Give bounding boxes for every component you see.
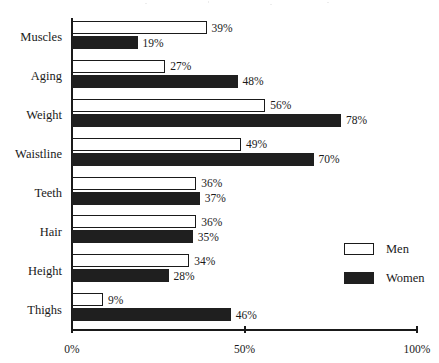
category-label-muscles: Muscles	[20, 30, 62, 44]
bar-men-thighs: 9%	[72, 293, 103, 306]
bar-women-weight: 78%	[72, 114, 341, 127]
bar-value-label: 9%	[108, 294, 123, 306]
x-tick-label: 50%	[234, 343, 255, 355]
category-label-hair: Hair	[40, 225, 62, 239]
x-tick-label: 100%	[404, 343, 431, 355]
bar-value-label: 78%	[346, 114, 367, 126]
bar-row: Teeth36%37%	[72, 174, 417, 213]
bar-value-label: 28%	[174, 270, 195, 282]
bar-value-label: 34%	[194, 255, 215, 267]
bar-women-height: 28%	[72, 269, 169, 282]
bar-value-label: 35%	[198, 231, 219, 243]
bar-value-label: 48%	[243, 75, 264, 87]
bar-value-label: 70%	[319, 153, 340, 165]
legend-label-women: Women	[386, 271, 425, 285]
bar-women-teeth: 37%	[72, 192, 200, 205]
bar-men-hair: 36%	[72, 215, 196, 228]
legend-label-men: Men	[386, 242, 409, 256]
bar-value-label: 27%	[170, 60, 191, 72]
bar-women-waistline: 70%	[72, 153, 314, 166]
bar-value-label: 39%	[212, 22, 233, 34]
legend-item-men: Men	[344, 238, 436, 260]
bar-row: Waistline49%70%	[72, 135, 417, 174]
category-label-teeth: Teeth	[34, 186, 62, 200]
category-label-weight: Weight	[26, 108, 62, 122]
legend-item-women: Women	[344, 267, 436, 289]
bar-row: Muscles39%19%	[72, 18, 417, 57]
bar-chart: Muscles39%19%Aging27%48%Weight56%78%Wais…	[0, 0, 439, 363]
bar-value-label: 36%	[201, 216, 222, 228]
bar-value-label: 19%	[143, 37, 164, 49]
bar-men-muscles: 39%	[72, 21, 207, 34]
scan-artifact	[120, 1, 380, 6]
chart-legend: Men Women	[344, 238, 436, 296]
x-tick-mark	[71, 326, 73, 333]
category-label-waistline: Waistline	[15, 147, 62, 161]
category-label-thighs: Thighs	[27, 303, 62, 317]
bar-men-weight: 56%	[72, 99, 265, 112]
bar-men-aging: 27%	[72, 60, 165, 73]
x-tick-label: 0%	[64, 343, 79, 355]
bar-men-height: 34%	[72, 254, 189, 267]
bar-value-label: 36%	[201, 177, 222, 189]
bar-value-label: 37%	[205, 192, 226, 204]
bar-value-label: 56%	[270, 99, 291, 111]
x-tick-mark	[244, 326, 246, 333]
category-label-aging: Aging	[31, 69, 62, 83]
outlined-square-icon	[344, 243, 374, 255]
bar-value-label: 49%	[246, 138, 267, 150]
category-label-height: Height	[28, 264, 62, 278]
x-tick-mark	[416, 326, 418, 333]
bar-women-aging: 48%	[72, 75, 238, 88]
filled-square-icon	[344, 272, 374, 284]
bar-men-teeth: 36%	[72, 177, 196, 190]
bar-row: Aging27%48%	[72, 57, 417, 96]
bar-women-muscles: 19%	[72, 36, 138, 49]
bar-women-hair: 35%	[72, 230, 193, 243]
bar-men-waistline: 49%	[72, 138, 241, 151]
bar-row: Weight56%78%	[72, 96, 417, 135]
bar-women-thighs: 46%	[72, 308, 231, 321]
bar-value-label: 46%	[236, 309, 257, 321]
